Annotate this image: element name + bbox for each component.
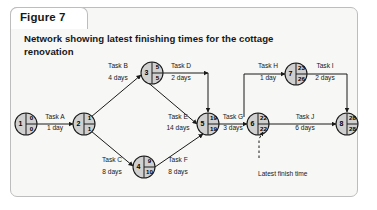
node-latest-time: 28 <box>349 125 356 132</box>
activity-name: Task I <box>316 62 333 69</box>
node-event-number: 6 <box>251 120 255 127</box>
activity-duration: 14 days <box>166 124 190 132</box>
activity-duration: 8 days <box>102 168 122 176</box>
activity-duration: 4 days <box>108 74 128 82</box>
node-earliest-time: 23 <box>298 64 305 71</box>
activity-name: Task F <box>168 156 187 163</box>
node-latest-time: 0 <box>30 125 34 132</box>
activity-name: Task G <box>223 113 244 120</box>
event-node-1: 100 <box>15 113 37 135</box>
node-latest-time: 1 <box>88 125 92 132</box>
activity-name: Task E <box>168 113 188 120</box>
event-node-3: 355 <box>141 62 163 84</box>
node-latest-time: 26 <box>298 75 305 82</box>
node-event-number: 7 <box>289 70 293 77</box>
event-node-5: 51919 <box>197 113 219 135</box>
node-latest-time: 19 <box>210 125 217 132</box>
activity-duration: 2 days <box>315 74 335 82</box>
node-earliest-time: 28 <box>349 114 356 121</box>
event-node-2: 211 <box>73 113 95 135</box>
node-earliest-time: 0 <box>30 114 34 121</box>
activity-duration: 1 day <box>47 124 64 132</box>
figure-tab: Figure 7 <box>10 7 88 29</box>
node-event-number: 1 <box>19 120 23 127</box>
activity-duration: 6 days <box>295 124 315 132</box>
node-latest-time: 5 <box>156 74 160 81</box>
figure-tab-label: Figure 7 <box>20 11 66 23</box>
activity-duration: 1 day <box>260 74 277 82</box>
node-latest-time: 10 <box>146 168 153 175</box>
node-event-number: 2 <box>77 120 81 127</box>
node-earliest-time: 9 <box>148 157 152 164</box>
activity-duration: 2 days <box>171 74 191 82</box>
event-node-4: 4910 <box>133 156 155 178</box>
node-latest-time: 22 <box>260 125 267 132</box>
node-event-number: 5 <box>201 120 205 127</box>
annotation-label: Latest finish time <box>258 170 308 177</box>
activity-duration: 8 days <box>168 168 188 176</box>
node-earliest-time: 19 <box>210 114 217 121</box>
activity-duration: 3 days <box>223 124 243 132</box>
event-node-7: 72326 <box>285 63 307 85</box>
node-event-number: 4 <box>137 163 141 170</box>
event-node-8: 82828 <box>336 113 358 135</box>
activity-name: Task J <box>296 113 315 120</box>
node-earliest-time: 22 <box>260 114 267 121</box>
node-earliest-time: 1 <box>88 114 92 121</box>
activity-name: Task D <box>171 62 191 69</box>
event-node-6: 62222 <box>247 113 269 135</box>
figure-title: Network showing latest finishing times f… <box>24 32 324 58</box>
activity-name: Task H <box>258 62 278 69</box>
node-event-number: 8 <box>340 120 344 127</box>
activity-name: Task C <box>102 156 122 163</box>
activity-name: Task A <box>45 113 65 120</box>
activity-name: Task B <box>108 62 128 69</box>
node-earliest-time: 5 <box>156 63 160 70</box>
node-event-number: 3 <box>145 69 149 76</box>
